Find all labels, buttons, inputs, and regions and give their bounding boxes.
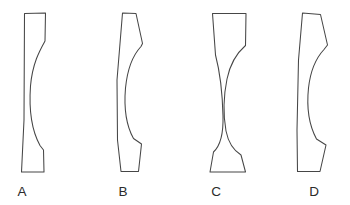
shape-label-c: C [211, 184, 221, 199]
shape-label-d: D [309, 184, 319, 199]
shape-label-b: B [118, 184, 127, 199]
shape-label-a: A [17, 184, 26, 199]
shapes-diagram: A B C D [0, 0, 350, 205]
figure-canvas: A B C D [0, 0, 350, 205]
